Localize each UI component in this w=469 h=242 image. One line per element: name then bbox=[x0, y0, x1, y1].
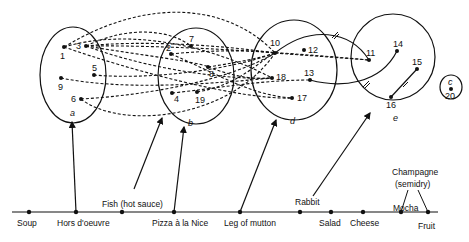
dish-point bbox=[27, 210, 31, 214]
dish-label: Salad bbox=[319, 218, 341, 228]
node-label-4: 4 bbox=[174, 94, 179, 104]
dish-to-cluster-arrow bbox=[313, 113, 370, 196]
champagne-link bbox=[418, 190, 428, 212]
node-label-13: 13 bbox=[304, 68, 314, 78]
dish-label: Pizza à la Nice bbox=[152, 218, 208, 228]
dish-label: Cheese bbox=[350, 218, 380, 228]
champagne-sublabel: (semidry) bbox=[395, 179, 431, 189]
cluster-label-d: d bbox=[290, 116, 296, 126]
edge-tick-mark bbox=[363, 81, 370, 88]
cluster-label-c: c bbox=[448, 77, 453, 87]
dish-label: Fish (hot sauce) bbox=[102, 199, 163, 209]
dashed-edge bbox=[172, 80, 310, 93]
dish-label: Hors d'oeuvre bbox=[57, 218, 110, 228]
dish-point bbox=[120, 210, 124, 214]
dish-label: Mocha bbox=[393, 203, 419, 213]
node-5 bbox=[92, 73, 96, 77]
node-3 bbox=[84, 44, 88, 48]
node-label-19: 19 bbox=[195, 95, 205, 105]
node-label-6: 6 bbox=[71, 94, 76, 104]
dish-label: Fruit bbox=[418, 221, 436, 231]
node-label-2: 2 bbox=[166, 43, 171, 53]
node-10 bbox=[273, 51, 277, 55]
node-14 bbox=[395, 49, 399, 53]
node-label-7: 7 bbox=[189, 34, 194, 44]
node-label-14: 14 bbox=[393, 39, 403, 49]
node-label-10: 10 bbox=[270, 38, 280, 48]
champagne-label: Champagne bbox=[392, 167, 439, 177]
dish-to-cluster-arrow bbox=[134, 118, 162, 189]
node-18 bbox=[270, 76, 274, 80]
dish-to-cluster-arrow bbox=[240, 120, 276, 212]
dish-to-cluster-arrow bbox=[72, 122, 76, 212]
node-7 bbox=[189, 44, 193, 48]
dish-label: Leg of mutton bbox=[224, 218, 276, 228]
cluster-label-e: e bbox=[393, 113, 398, 123]
dish-point bbox=[361, 210, 365, 214]
node-17 bbox=[290, 96, 294, 100]
node-label-12: 12 bbox=[308, 45, 318, 55]
node-label-15: 15 bbox=[412, 57, 422, 67]
cluster-label-b: b bbox=[188, 118, 193, 128]
node-19 bbox=[195, 90, 199, 94]
dashed-edge bbox=[61, 78, 272, 85]
node-label-8: 8 bbox=[209, 69, 214, 79]
dashed-edge bbox=[275, 53, 369, 60]
node-15 bbox=[415, 67, 419, 71]
node-label-18: 18 bbox=[276, 72, 286, 82]
cluster-label-a: a bbox=[70, 108, 75, 118]
node-6 bbox=[79, 97, 83, 101]
node-label-20: 20 bbox=[445, 91, 455, 101]
dish-label: Soup bbox=[17, 218, 37, 228]
dashed-edge bbox=[171, 51, 275, 54]
dish-label: Rabbit bbox=[295, 197, 320, 207]
dish-to-cluster-arrow bbox=[174, 127, 184, 212]
dashed-edge-layer bbox=[61, 12, 369, 116]
node-label-1: 1 bbox=[60, 51, 65, 61]
node-label-3: 3 bbox=[76, 41, 81, 51]
dish-point bbox=[329, 210, 333, 214]
node-label-17: 17 bbox=[297, 93, 307, 103]
node-label-5: 5 bbox=[92, 63, 97, 73]
node-label-16: 16 bbox=[386, 100, 396, 110]
node-11 bbox=[367, 58, 371, 62]
dashed-edge bbox=[94, 53, 275, 76]
cluster-layer: abdec bbox=[40, 14, 462, 128]
node-12 bbox=[302, 48, 306, 52]
node-16 bbox=[389, 95, 393, 99]
node-1 bbox=[62, 45, 66, 49]
node-9 bbox=[59, 76, 63, 80]
arrow-layer bbox=[72, 113, 370, 212]
meal-graph-diagram: abdec 1359672841910121813171114151620 So… bbox=[0, 0, 469, 242]
node-13 bbox=[308, 78, 312, 82]
dashed-edge bbox=[86, 46, 208, 67]
node-label-9: 9 bbox=[58, 82, 63, 92]
dish-point bbox=[298, 210, 302, 214]
node-label-11: 11 bbox=[366, 48, 375, 58]
